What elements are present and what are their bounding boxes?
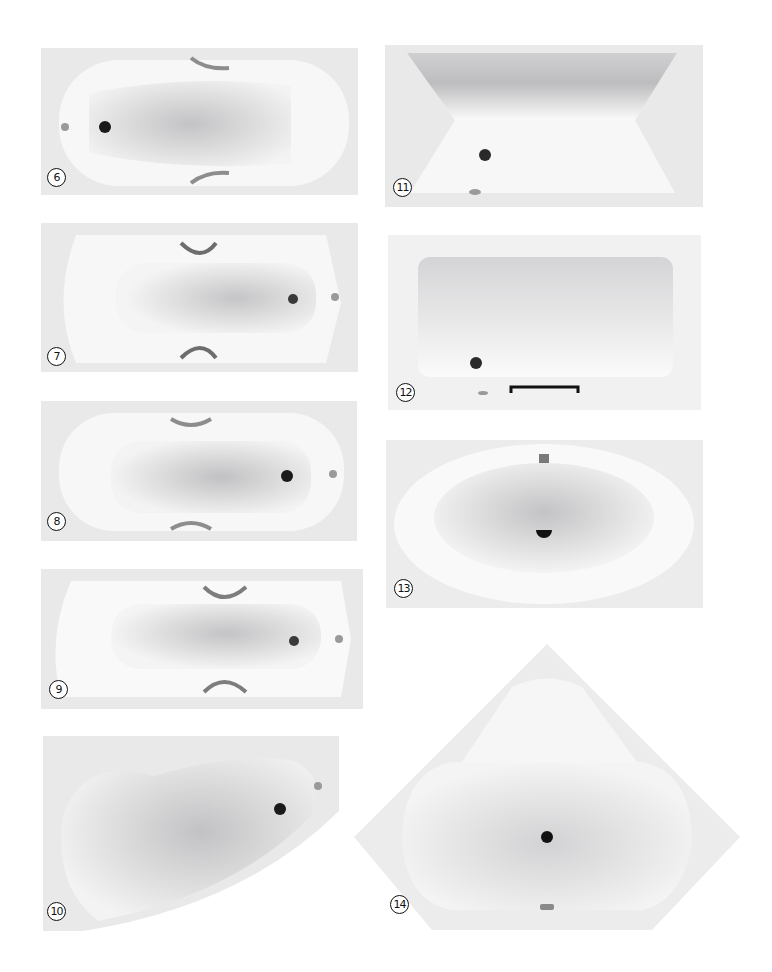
grip-bar-icon [511, 387, 578, 393]
bathtub-9[interactable]: 9 [41, 569, 363, 709]
bathtub-13-illustration [386, 440, 703, 608]
item-number-badge: 6 [47, 168, 66, 187]
bathtub-14-illustration [352, 642, 742, 932]
bathtub-10-illustration [43, 736, 339, 931]
bathtub-8-illustration [41, 401, 357, 541]
item-number-badge: 10 [47, 902, 66, 921]
item-number-badge: 8 [47, 512, 66, 531]
bathtub-8[interactable]: 8 [41, 401, 357, 541]
bathtub-6-illustration [41, 48, 358, 195]
bathtub-9-illustration [41, 569, 363, 709]
item-number-badge: 12 [396, 383, 415, 402]
bathtub-11-illustration [385, 45, 703, 207]
bathtub-13[interactable]: 13 [386, 440, 703, 608]
bathtub-11[interactable]: 11 [385, 45, 703, 207]
item-number-badge: 11 [393, 178, 412, 197]
bathtub-12[interactable]: 12 [388, 235, 701, 410]
item-number-badge: 7 [47, 347, 66, 366]
item-number-badge: 9 [49, 680, 68, 699]
item-number-badge: 14 [390, 895, 409, 914]
item-number-badge: 13 [394, 579, 413, 598]
bathtub-6[interactable]: 6 [41, 48, 358, 195]
bathtub-7-illustration [41, 223, 358, 372]
bathtub-12-illustration [388, 235, 701, 410]
bathtub-10[interactable]: 10 [43, 736, 339, 931]
bathtub-14[interactable]: 14 [352, 642, 742, 932]
bathtub-7[interactable]: 7 [41, 223, 358, 372]
